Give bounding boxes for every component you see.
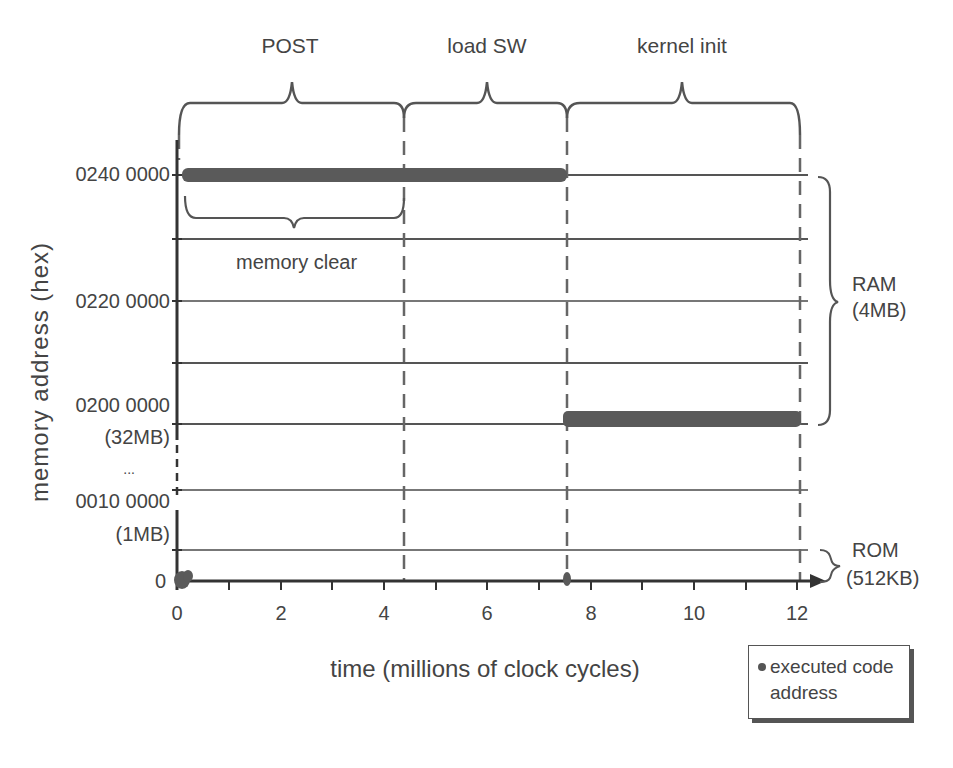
address-lines: [177, 175, 808, 550]
ytick-0010-sub: (1MB): [116, 524, 170, 544]
x-axis: [177, 574, 826, 590]
y-axis: [172, 140, 182, 590]
phase-separators: [179, 118, 800, 580]
xtick-0: 0: [171, 603, 182, 623]
executed-code-series: [174, 168, 801, 589]
ram-region-name: RAM: [852, 272, 896, 297]
legend: executed code address: [748, 645, 910, 719]
phase-label-kernel-init: kernel init: [637, 35, 727, 56]
legend-text: executed code address: [770, 654, 894, 706]
x-axis-title: time (millions of clock cycles): [330, 655, 639, 683]
phase-label-post: POST: [261, 35, 318, 56]
rom-region-size: (512KB): [846, 566, 919, 591]
brace-post: [179, 82, 404, 135]
xtick-10: 10: [683, 603, 705, 623]
y-axis-title: memory address (hex): [26, 242, 54, 502]
brace-memory-clear: [185, 196, 404, 228]
xtick-4: 4: [378, 603, 389, 623]
brace-rom: [820, 550, 840, 582]
ytick-0: 0: [155, 571, 166, 591]
ytick-0200: 0200 0000: [75, 395, 170, 415]
phase-label-load-sw: load SW: [447, 35, 526, 56]
ytick-0240: 0240 0000: [75, 164, 170, 184]
dot-rom-kernel: [563, 572, 571, 586]
ytick-break-dots: ...: [123, 462, 135, 476]
brace-kernel-init: [567, 82, 800, 135]
brace-load-sw: [404, 82, 567, 118]
brace-ram: [818, 177, 838, 425]
bar-memory-clear-high: [182, 168, 567, 182]
xtick-12: 12: [786, 603, 808, 623]
dot-rom-start-2: [183, 570, 193, 582]
xtick-8: 8: [585, 603, 596, 623]
memory-clear-label: memory clear: [236, 252, 357, 272]
bar-kernel-ram: [563, 411, 801, 427]
legend-line-2: address: [770, 680, 894, 706]
rom-region-name: ROM: [852, 538, 899, 563]
ytick-0010: 0010 0000: [75, 491, 170, 511]
legend-dot-icon: [758, 663, 766, 671]
legend-line-1: executed code: [770, 654, 894, 680]
phase-braces: [179, 82, 800, 135]
boot-memory-diagram: POST load SW kernel init memory clear 02…: [0, 0, 953, 768]
ytick-0200-sub: (32MB): [104, 427, 170, 447]
ytick-0220: 0220 0000: [75, 291, 170, 311]
ram-region-size: (4MB): [852, 298, 906, 323]
xtick-2: 2: [275, 603, 286, 623]
xtick-6: 6: [481, 603, 492, 623]
